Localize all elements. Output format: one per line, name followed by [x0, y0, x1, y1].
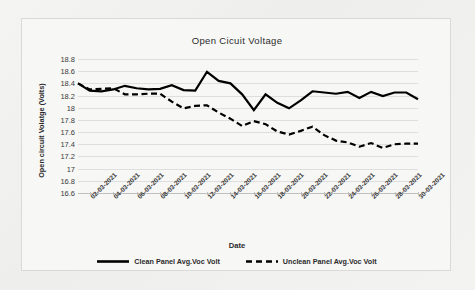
series-line	[78, 72, 418, 110]
y-tick-label: 18.4	[60, 79, 75, 88]
y-tick-label: 18.2	[60, 91, 75, 100]
series-lines	[78, 59, 418, 193]
chart-frame: Open Cicuit Voltage Open circuit Volatge…	[21, 18, 451, 271]
y-tick-label: 16.8	[60, 176, 75, 185]
y-tick-label: 17.6	[60, 128, 75, 137]
chart-legend: Clean Panel Avg.Voc Volt Unclean Panel A…	[22, 257, 452, 266]
y-tick-label: 17.4	[60, 140, 75, 149]
legend-item-unclean-panel[interactable]: Unclean Panel Avg.Voc Volt	[246, 257, 377, 266]
legend-label-clean-panel: Clean Panel Avg.Voc Volt	[134, 257, 219, 266]
y-tick-label: 17.8	[60, 115, 75, 124]
chart-title: Open Cicuit Voltage	[22, 35, 452, 46]
y-tick-label: 18	[67, 103, 75, 112]
x-axis-tick-labels: 02-03-202104-03-202106-03-202108-03-2021…	[78, 195, 418, 241]
y-tick-label: 17	[67, 164, 75, 173]
plot-area	[78, 59, 418, 193]
legend-item-clean-panel[interactable]: Clean Panel Avg.Voc Volt	[97, 257, 219, 266]
x-axis-title: Date	[22, 241, 452, 250]
y-tick-label: 16.6	[60, 189, 75, 198]
y-tick-label: 17.2	[60, 152, 75, 161]
y-tick-label: 18.8	[60, 55, 75, 64]
y-axis-tick-labels: 18.818.618.418.21817.817.617.417.21716.8…	[42, 59, 75, 193]
legend-swatch-dashed	[246, 258, 278, 265]
chart-background: Open Cicuit Voltage Open circuit Volatge…	[0, 0, 475, 290]
legend-label-unclean-panel: Unclean Panel Avg.Voc Volt	[283, 257, 377, 266]
y-tick-label: 18.6	[60, 67, 75, 76]
legend-swatch-solid	[97, 258, 129, 265]
x-axis-line	[78, 193, 418, 194]
